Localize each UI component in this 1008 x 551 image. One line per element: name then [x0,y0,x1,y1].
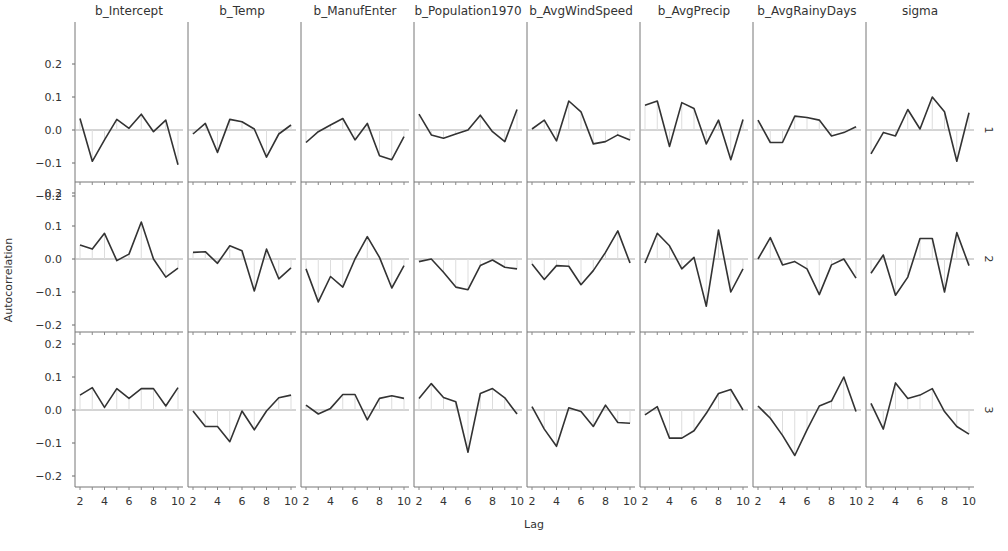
panel [640,22,748,185]
column-title: b_AvgWindSpeed [529,4,633,18]
panel [527,332,635,490]
x-tick-label: 2 [755,495,762,508]
x-tick-label: 6 [126,495,133,508]
autocorrelation-line [306,237,404,302]
x-tick-label: 8 [941,495,948,508]
column-title: b_Temp [219,4,265,18]
panel [753,182,861,335]
x-tick-label: 2 [529,495,536,508]
y-tick-label: 0.2 [45,338,63,351]
column-title: sigma [902,4,938,18]
x-tick-label: 8 [715,495,722,508]
y-tick-label: −0.1 [35,437,62,450]
x-tick-label: 4 [892,495,899,508]
x-tick-label: 4 [440,495,447,508]
x-tick-label: 8 [376,495,383,508]
x-tick-label: 6 [352,495,359,508]
panel [188,332,296,490]
x-tick-label: 6 [917,495,924,508]
x-tick-label: 4 [101,495,108,508]
x-tick-label: 4 [553,495,560,508]
autocorrelation-line [532,405,630,446]
x-tick-label: 10 [397,495,411,508]
y-tick-label: 0.0 [45,124,63,137]
y-axis-ticks: 0.20.10.0−0.1−0.20.20.10.0−0.1−0.20.20.1… [35,58,75,483]
y-tick-label: 0.0 [45,253,63,266]
column-title: b_ManufEnter [314,4,397,18]
x-tick-label: 2 [642,495,649,508]
y-axis-label: Autocorrelation [2,238,15,323]
x-tick-label: 8 [489,495,496,508]
row-label: 3 [982,407,995,414]
x-tick-label: 4 [666,495,673,508]
y-tick-label: 0.2 [45,187,63,200]
panel [301,182,409,335]
y-tick-label: −0.1 [35,157,62,170]
x-tick-label: 6 [804,495,811,508]
autocorrelation-line [645,230,743,306]
row-label: 2 [982,256,995,263]
panel [527,182,635,335]
x-tick-label: 6 [578,495,585,508]
x-tick-label: 2 [416,495,423,508]
autocorrelation-line [419,110,517,142]
panel [640,182,748,335]
x-axis-label: Lag [524,518,544,531]
column-title: b_AvgRainyDays [757,4,856,18]
x-tick-label: 6 [239,495,246,508]
x-tick-label: 6 [691,495,698,508]
panel [753,332,861,490]
autocorrelation-facet-chart: b_Interceptb_Tempb_ManufEnterb_Populatio… [0,0,1008,551]
x-tick-label: 2 [303,495,310,508]
x-tick-label: 8 [150,495,157,508]
x-tick-label: 10 [623,495,637,508]
panel [75,332,183,490]
autocorrelation-line [871,97,969,161]
column-title: b_AvgPrecip [658,4,730,18]
panel [527,22,635,185]
autocorrelation-line [80,222,178,277]
x-tick-label: 2 [868,495,875,508]
autocorrelation-line [193,246,291,291]
x-tick-label: 8 [263,495,270,508]
panel [75,182,183,335]
panel [753,22,861,185]
x-tick-label: 2 [77,495,84,508]
autocorrelation-line [306,119,404,160]
panels [75,22,974,490]
row-labels: 123 [982,127,995,414]
column-title: b_Intercept [95,4,163,18]
x-tick-label: 4 [779,495,786,508]
y-tick-label: 0.1 [45,220,63,233]
y-tick-label: 0.1 [45,371,63,384]
column-title: b_Population1970 [414,4,521,18]
y-tick-label: 0.0 [45,404,63,417]
y-tick-label: −0.2 [35,319,62,332]
panel [866,182,974,335]
y-tick-label: 0.2 [45,58,63,71]
x-tick-label: 10 [962,495,976,508]
autocorrelation-line [80,114,178,165]
x-tick-label: 6 [465,495,472,508]
panel [866,22,974,185]
panel [866,332,974,490]
panel [188,182,296,335]
x-tick-label: 8 [602,495,609,508]
y-tick-label: 0.1 [45,91,63,104]
x-tick-label: 10 [849,495,863,508]
row-label: 1 [982,127,995,134]
panel [640,332,748,490]
y-tick-label: −0.1 [35,286,62,299]
column-titles: b_Interceptb_Tempb_ManufEnterb_Populatio… [95,4,938,18]
panel [414,332,522,490]
panel [414,182,522,335]
x-axis-ticks: 2468102468102468102468102468102468102468… [77,495,977,508]
x-tick-label: 10 [284,495,298,508]
x-tick-label: 10 [171,495,185,508]
autocorrelation-line [193,395,291,442]
x-tick-label: 2 [190,495,197,508]
x-tick-label: 8 [828,495,835,508]
y-tick-label: −0.2 [35,470,62,483]
x-tick-label: 10 [510,495,524,508]
x-tick-label: 4 [327,495,334,508]
